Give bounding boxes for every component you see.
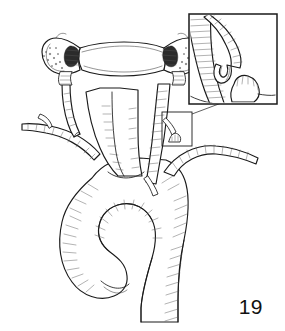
figure-illustration: 19 bbox=[0, 0, 285, 331]
vertebral-left-outline bbox=[62, 84, 80, 137]
aortic-arch-outline bbox=[60, 158, 188, 322]
figure-number-label: 19 bbox=[239, 296, 263, 317]
brachiocephalic-trunk-outline bbox=[86, 88, 142, 176]
articular-stub-left bbox=[59, 72, 73, 85]
subclavian-left-outline bbox=[22, 124, 100, 160]
cervical-vertebra bbox=[42, 33, 202, 85]
foramen-transversarium-left bbox=[64, 46, 79, 67]
transverse-process-left-tip bbox=[56, 33, 66, 38]
subclavian-artery-left bbox=[22, 114, 100, 160]
aortic-arch-group bbox=[60, 158, 188, 322]
transverse-process-right-tip bbox=[178, 33, 188, 38]
vertebral-artery-left bbox=[62, 84, 80, 137]
anatomical-line-drawing bbox=[0, 0, 285, 331]
articular-stub-right bbox=[172, 72, 186, 85]
foramen-transversarium-right bbox=[163, 46, 178, 67]
articular-stub-hatch bbox=[60, 76, 184, 84]
vertebral-body bbox=[79, 42, 166, 76]
inset-panel bbox=[186, 12, 277, 108]
central-trunks-group bbox=[86, 88, 144, 178]
